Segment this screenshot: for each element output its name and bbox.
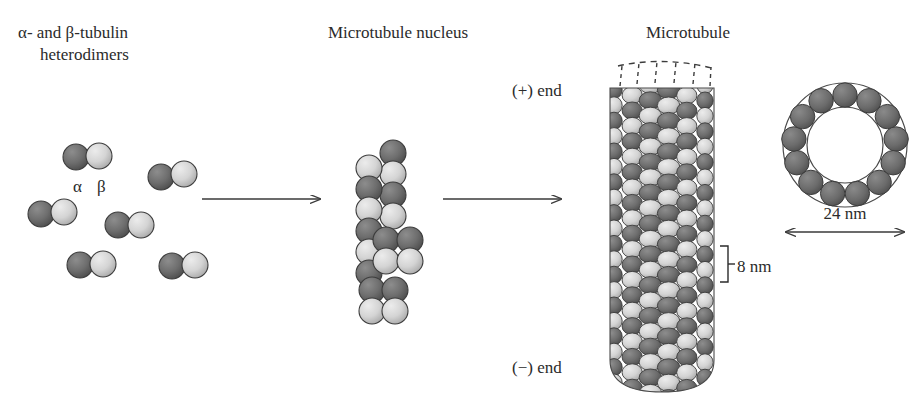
- diagram-graphics: [0, 0, 921, 415]
- beta-subunit: [677, 148, 697, 165]
- beta-subunit: [697, 231, 713, 248]
- alpha-subunit: [606, 389, 622, 406]
- cross-section-subunit: [884, 127, 908, 151]
- alpha-subunit: [697, 308, 713, 325]
- microtubule-assembly-figure: α- and β-tubulin heterodimers Microtubul…: [0, 0, 921, 415]
- alpha-subunit: [677, 318, 697, 335]
- alpha-subunit: [606, 143, 622, 160]
- beta-subunit: [606, 158, 622, 175]
- alpha-subunit: [697, 246, 713, 263]
- heterodimer-2: [148, 161, 197, 190]
- cross-section-subunit: [875, 104, 899, 128]
- beta-subunit: [697, 107, 713, 124]
- cross-section-subunit: [782, 127, 806, 151]
- alpha-subunit: [67, 252, 93, 278]
- alpha-subunit: [606, 297, 622, 314]
- beta-subunit: [697, 169, 713, 186]
- beta-subunit: [677, 333, 697, 350]
- alpha-subunit: [697, 277, 713, 294]
- cross-section-subunit: [820, 181, 844, 205]
- beta-subunit: [697, 385, 713, 402]
- beta-subunit: [606, 282, 622, 299]
- alpha-subunit: [606, 266, 622, 283]
- cross-section-subunit: [845, 181, 869, 205]
- heterodimer-5: [67, 251, 116, 278]
- microtubule-lattice: [606, 71, 713, 406]
- beta-subunit: [677, 118, 697, 135]
- beta-subunit: [86, 143, 112, 169]
- beta-subunit: [171, 161, 197, 187]
- alpha-subunit: [697, 184, 713, 201]
- alpha-subunit: [677, 195, 697, 212]
- alpha-subunit: [105, 212, 131, 238]
- alpha-subunit: [148, 164, 174, 190]
- heterodimer-pool: [28, 143, 208, 279]
- beta-subunit: [182, 252, 208, 278]
- beta-subunit: [606, 128, 622, 145]
- beta-subunit: [677, 272, 697, 289]
- beta-subunit: [697, 292, 713, 309]
- microtubule-cylinder: [606, 71, 714, 406]
- beta-subunit: [677, 364, 697, 381]
- beta-subunit: [90, 251, 116, 277]
- beta-subunit: [697, 354, 713, 371]
- cross-section-subunit: [867, 170, 891, 194]
- alpha-subunit: [697, 215, 713, 232]
- alpha-subunit: [677, 133, 697, 150]
- alpha-subunit: [697, 92, 713, 109]
- heterodimer-6: [159, 252, 208, 279]
- beta-subunit: [697, 261, 713, 278]
- alpha-subunit: [28, 201, 54, 227]
- nucleus-subunit: [382, 298, 408, 324]
- beta-subunit: [677, 210, 697, 227]
- microtubule-nucleus: [356, 140, 423, 324]
- cross-section-lumen: [809, 109, 881, 181]
- beta-subunit: [677, 179, 697, 196]
- beta-subunit: [697, 138, 713, 155]
- heterodimer-1: [63, 143, 112, 170]
- cross-section-subunit: [785, 151, 809, 175]
- nucleus-subunit: [397, 248, 423, 274]
- beta-subunit: [677, 241, 697, 258]
- alpha-subunit: [677, 349, 697, 366]
- alpha-subunit: [606, 205, 622, 222]
- alpha-subunit: [606, 112, 622, 129]
- beta-subunit: [51, 199, 77, 225]
- beta-subunit: [606, 189, 622, 206]
- alpha-subunit: [606, 328, 622, 345]
- beta-subunit: [677, 87, 697, 104]
- alpha-subunit: [697, 123, 713, 140]
- beta-subunit: [697, 200, 713, 217]
- alpha-subunit: [697, 338, 713, 355]
- alpha-subunit: [677, 164, 697, 181]
- alpha-subunit: [606, 174, 622, 191]
- beta-subunit: [128, 212, 154, 238]
- alpha-subunit: [677, 287, 697, 304]
- nucleus-subunit: [359, 298, 385, 324]
- heterodimer-4: [105, 212, 154, 238]
- alpha-subunit: [697, 154, 713, 171]
- beta-subunit: [606, 374, 622, 391]
- beta-subunit: [697, 323, 713, 340]
- nucleus-subunit: [380, 203, 406, 229]
- beta-subunit: [606, 312, 622, 329]
- alpha-subunit: [677, 102, 697, 119]
- beta-subunit: [677, 302, 697, 319]
- beta-subunit: [606, 220, 622, 237]
- nucleus-subunit: [373, 248, 399, 274]
- alpha-subunit: [677, 256, 697, 273]
- alpha-subunit: [63, 144, 89, 170]
- beta-subunit: [606, 343, 622, 360]
- cross-section-subunit: [809, 89, 833, 113]
- alpha-subunit: [606, 235, 622, 252]
- microtubule-cross-section: [782, 83, 909, 207]
- heterodimer-3: [28, 199, 77, 227]
- alpha-subunit: [159, 253, 185, 279]
- bracket-8nm: [720, 246, 735, 282]
- beta-subunit: [606, 251, 622, 268]
- cross-section-subunit: [833, 83, 857, 107]
- alpha-subunit: [606, 359, 622, 376]
- beta-subunit: [606, 97, 622, 114]
- growth-dome-dashed: [618, 61, 712, 68]
- alpha-subunit: [677, 225, 697, 242]
